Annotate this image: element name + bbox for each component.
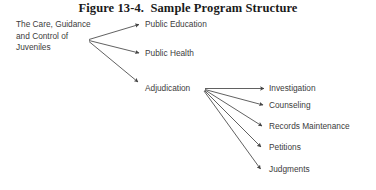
node-records-maintenance: Records Maintenance: [269, 121, 350, 133]
node-petitions: Petitions: [269, 142, 301, 154]
node-public-education: Public Education: [145, 19, 207, 31]
node-root-line-3: Juveniles: [16, 42, 51, 52]
node-judgments: Judgments: [269, 164, 310, 176]
edge-adjudication-to-judgments: [204, 91, 261, 169]
node-public-health: Public Health: [145, 48, 194, 60]
node-counseling: Counseling: [269, 100, 311, 112]
figure-container: Figure 13-4. Sample Program Structure Th…: [0, 0, 376, 190]
node-root: The Care, Guidanceand Control ofJuvenile…: [16, 19, 126, 54]
node-investigation: Investigation: [269, 83, 316, 95]
node-adjudication: Adjudication: [145, 83, 190, 95]
edge-adjudication-to-records-maintenance: [205, 90, 262, 126]
edge-adjudication-to-petitions: [205, 91, 262, 148]
node-root-line-1: The Care, Guidance: [16, 19, 91, 29]
edge-adjudication-to-counseling: [205, 90, 263, 106]
node-root-line-2: and Control of: [16, 31, 68, 41]
